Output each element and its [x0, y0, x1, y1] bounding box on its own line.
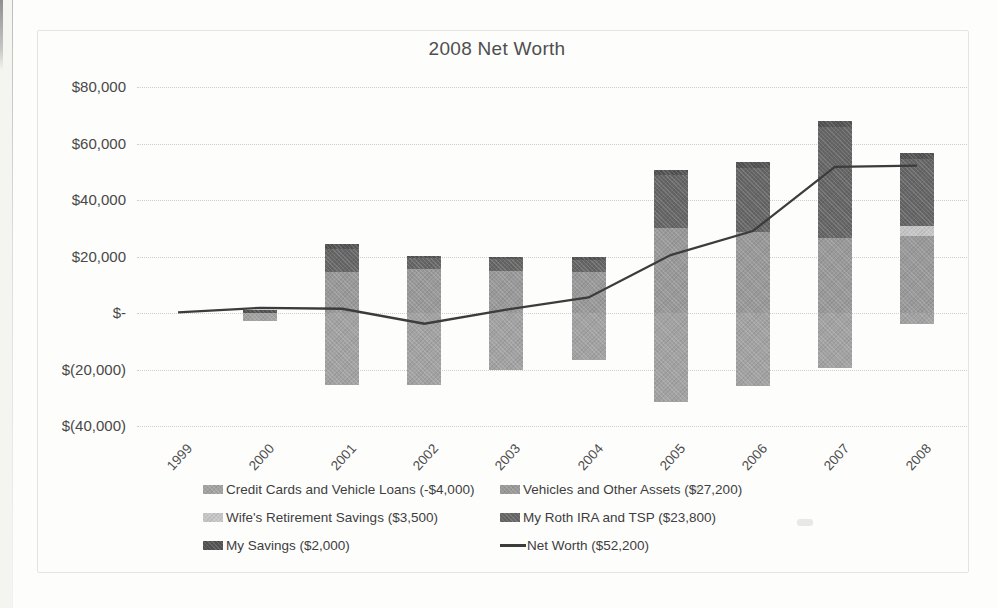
bar-segment-my-savings	[818, 121, 852, 127]
y-axis-tick-label: $40,000	[36, 191, 126, 208]
scan-edge-line	[12, 0, 13, 608]
legend-item-my-savings: My Savings ($2,000)	[203, 536, 500, 555]
legend-item-credit-cards-and-vehicle-loans: Credit Cards and Vehicle Loans (-$4,000)	[203, 480, 500, 499]
bar-segment-vehicles-and-other-assets	[572, 272, 606, 313]
bar-segment-my-roth-ira-and-tsp	[818, 127, 852, 239]
bar-segment-wife-s-retirement-savings	[900, 226, 934, 236]
chart-title: 2008 Net Worth	[357, 38, 637, 60]
bar-segment-my-savings	[654, 170, 688, 174]
legend-label: Credit Cards and Vehicle Loans (-$4,000)	[226, 480, 474, 499]
y-axis-tick-label: $(20,000)	[36, 361, 126, 378]
bar-segment-credit-cards-and-vehicle-loans	[900, 313, 934, 324]
bar-segment-my-savings	[407, 256, 441, 258]
bar-segment-credit-cards-and-vehicle-loans	[407, 313, 441, 385]
scan-artifact	[0, 0, 3, 70]
bar-segment-my-roth-ira-and-tsp	[736, 168, 770, 233]
scanned-chart-page: 2008 Net Worth $80,000$60,000$40,000$20,…	[0, 0, 998, 608]
bar-segment-vehicles-and-other-assets	[489, 271, 523, 313]
bar-segment-credit-cards-and-vehicle-loans	[243, 313, 277, 321]
legend-swatch-wife-s-retirement-savings	[203, 513, 223, 522]
legend-label: Vehicles and Other Assets ($27,200)	[523, 480, 742, 499]
legend-swatch-vehicles-and-other-assets	[500, 485, 520, 494]
legend-swatch-my-roth-ira-and-tsp	[500, 513, 520, 522]
y-axis-tick-label: $-	[36, 304, 126, 321]
bar-segment-vehicles-and-other-assets	[818, 238, 852, 313]
bar-segment-my-savings	[325, 244, 359, 249]
y-axis-tick-label: $(40,000)	[36, 417, 126, 434]
legend-label: Wife's Retirement Savings ($3,500)	[226, 508, 438, 527]
gridline	[137, 87, 967, 88]
gridline	[137, 370, 967, 371]
bar-segment-my-roth-ira-and-tsp	[325, 249, 359, 272]
gridline	[137, 426, 967, 427]
bar-segment-vehicles-and-other-assets	[900, 236, 934, 313]
bar-segment-my-roth-ira-and-tsp	[407, 258, 441, 269]
legend-label: My Roth IRA and TSP ($23,800)	[523, 508, 716, 527]
bar-segment-credit-cards-and-vehicle-loans	[325, 313, 359, 385]
legend-line-marker-net-worth	[500, 544, 526, 547]
bar-segment-my-savings	[572, 257, 606, 260]
legend-item-wife-s-retirement-savings: Wife's Retirement Savings ($3,500)	[203, 508, 500, 527]
bar-segment-credit-cards-and-vehicle-loans	[572, 313, 606, 360]
bar-segment-my-savings	[900, 153, 934, 159]
legend-swatch-my-savings	[203, 541, 223, 550]
y-axis-tick-label: $80,000	[36, 78, 126, 95]
bar-segment-credit-cards-and-vehicle-loans	[818, 313, 852, 368]
bar-segment-credit-cards-and-vehicle-loans	[654, 313, 688, 402]
legend-item-net-worth: Net Worth ($52,200)	[500, 536, 883, 555]
bar-segment-my-roth-ira-and-tsp	[489, 259, 523, 271]
bar-segment-vehicles-and-other-assets	[736, 232, 770, 313]
y-axis-tick-label: $20,000	[36, 248, 126, 265]
bar-segment-my-roth-ira-and-tsp	[900, 159, 934, 226]
bar-segment-my-roth-ira-and-tsp	[654, 175, 688, 229]
bar-segment-my-savings	[243, 310, 277, 313]
bar-segment-my-savings	[489, 257, 523, 259]
bar-segment-vehicles-and-other-assets	[407, 269, 441, 313]
legend-item-my-roth-ira-and-tsp: My Roth IRA and TSP ($23,800)	[500, 508, 883, 527]
bar-segment-credit-cards-and-vehicle-loans	[489, 313, 523, 370]
bar-segment-my-roth-ira-and-tsp	[572, 260, 606, 272]
chart-legend: Credit Cards and Vehicle Loans (-$4,000)…	[203, 480, 883, 555]
bar-segment-credit-cards-and-vehicle-loans	[736, 313, 770, 386]
legend-label: Net Worth ($52,200)	[527, 536, 649, 555]
bar-segment-vehicles-and-other-assets	[654, 228, 688, 313]
bar-segment-vehicles-and-other-assets	[325, 272, 359, 313]
legend-swatch-credit-cards-and-vehicle-loans	[203, 485, 223, 494]
legend-label: My Savings ($2,000)	[226, 536, 350, 555]
scan-edge-band	[0, 0, 12, 608]
legend-item-vehicles-and-other-assets: Vehicles and Other Assets ($27,200)	[500, 480, 883, 499]
bar-segment-my-savings	[736, 162, 770, 168]
y-axis-tick-label: $60,000	[36, 135, 126, 152]
